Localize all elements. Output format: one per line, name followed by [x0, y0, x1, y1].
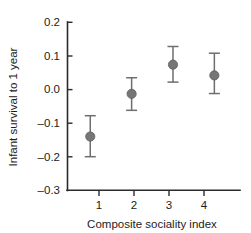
data-point-marker [210, 71, 219, 80]
x-tick-label: 2 [131, 199, 137, 211]
y-tick-label: –0.3 [38, 184, 60, 196]
data-point-marker [168, 60, 177, 69]
y-axis-title: Infant survival to 1 year [7, 47, 19, 166]
chart-figure: Infant survival to 1 year 0.2 0.1 0.0 –0… [0, 0, 251, 233]
y-tick-label: –0.1 [38, 117, 60, 129]
y-tick-label: 0.2 [44, 16, 60, 28]
y-tick-label: 0.0 [44, 83, 60, 95]
x-tick-label: 3 [166, 199, 172, 211]
y-tick-label: 0.1 [44, 50, 60, 62]
y-tick-label: –0.2 [38, 151, 60, 163]
x-tick-label: 1 [96, 199, 102, 211]
data-point-marker [86, 132, 95, 141]
data-point-marker [127, 89, 136, 98]
x-tick-label: 4 [201, 199, 208, 211]
chart-canvas: Infant survival to 1 year 0.2 0.1 0.0 –0… [0, 0, 251, 233]
x-axis-title: Composite sociality index [87, 218, 217, 230]
data-point-group [85, 46, 220, 156]
